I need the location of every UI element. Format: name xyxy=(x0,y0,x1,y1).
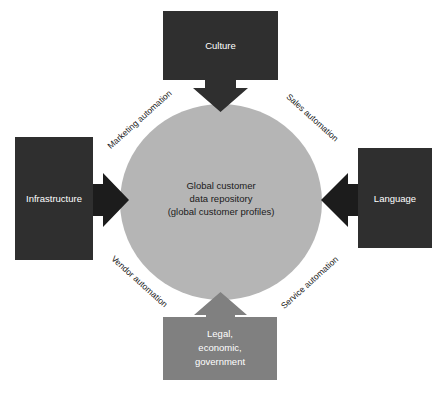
hub-and-spoke-diagram: Global customer data repository (global … xyxy=(0,0,446,394)
infrastructure-node-group[interactable]: Infrastructure xyxy=(15,137,129,260)
diagram-canvas: Global customer data repository (global … xyxy=(0,0,446,394)
legal-label-line-2: economic, xyxy=(198,342,241,353)
language-node-group[interactable]: Language xyxy=(321,148,432,248)
infrastructure-label: Infrastructure xyxy=(26,193,82,204)
legal-label-line-3: government xyxy=(195,356,246,367)
center-label-line-2: data repository xyxy=(190,193,253,204)
center-node-group: Global customer data repository (global … xyxy=(120,104,322,300)
language-label: Language xyxy=(374,193,416,204)
legal-economic-government-node-group[interactable]: Legal, economic, government xyxy=(163,292,277,380)
center-label-line-1: Global customer xyxy=(186,180,255,191)
culture-node-group[interactable]: Culture xyxy=(163,11,278,112)
culture-label: Culture xyxy=(205,40,236,51)
legal-label-line-1: Legal, xyxy=(207,328,233,339)
center-label-line-3: (global customer profiles) xyxy=(168,206,275,217)
language-arrow-left-icon xyxy=(321,173,358,227)
